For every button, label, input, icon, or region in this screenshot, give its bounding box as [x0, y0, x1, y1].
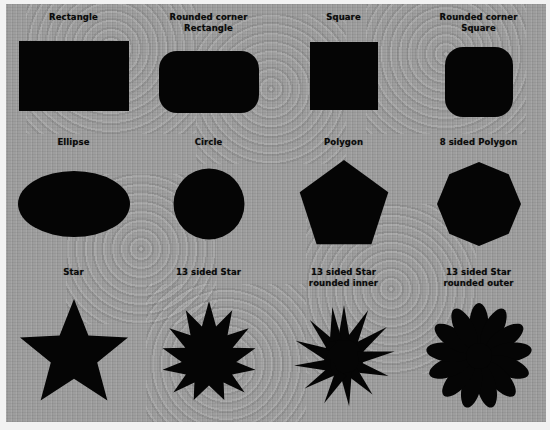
shape-label-13-sided-star-rounded-inner: 13 sided Star rounded inner — [309, 267, 378, 289]
shape-grid: Rectangle Rounded corner Rectangle Squar… — [6, 4, 546, 422]
shape-cell-star: Star — [6, 259, 141, 422]
ellipse-shape — [18, 171, 130, 237]
shape-figure-star-13 — [141, 278, 276, 422]
shape-label-ellipse: Ellipse — [57, 137, 89, 148]
shape-figure-star-13-rounded-outer — [411, 289, 546, 422]
rect-shape — [19, 41, 129, 111]
shape-cell-8-sided-polygon: 8 sided Polygon — [411, 129, 546, 259]
pentagon-shape — [299, 160, 388, 244]
star-13-shape — [162, 301, 255, 400]
figure-panel: Rectangle Rounded corner Rectangle Squar… — [6, 4, 546, 422]
shape-cell-13-sided-star-rounded-outer: 13 sided Star rounded outer — [411, 259, 546, 422]
shape-label-rectangle: Rectangle — [49, 12, 98, 23]
shape-cell-rounded-corner-rectangle: Rounded corner Rectangle — [141, 4, 276, 129]
shape-figure-circle — [141, 148, 276, 259]
shape-label-rounded-corner-square: Rounded corner Square — [440, 12, 518, 34]
shape-figure-star-13-rounded-inner — [276, 289, 411, 422]
figure-canvas: Rectangle Rounded corner Rectangle Squar… — [0, 0, 550, 430]
shape-figure-rounded-square — [411, 34, 546, 129]
shape-figure-octagon — [411, 148, 546, 259]
shape-label-star: Star — [63, 267, 84, 278]
shape-label-13-sided-star-rounded-outer: 13 sided Star rounded outer — [443, 267, 513, 289]
shape-label-rounded-corner-rectangle: Rounded corner Rectangle — [170, 12, 248, 34]
shape-label-square: Square — [326, 12, 361, 23]
shape-cell-ellipse: Ellipse — [6, 129, 141, 259]
star-5-shape — [20, 299, 128, 401]
octagon-shape — [437, 162, 521, 246]
shape-figure-ellipse — [6, 148, 141, 259]
shape-cell-13-sided-star-rounded-inner: 13 sided Star rounded inner — [276, 259, 411, 422]
shape-cell-rectangle: Rectangle — [6, 4, 141, 129]
shape-figure-square — [276, 23, 411, 129]
shape-figure-rounded-rectangle — [141, 34, 276, 129]
shape-cell-circle: Circle — [141, 129, 276, 259]
shape-label-8-sided-polygon: 8 sided Polygon — [440, 137, 518, 148]
shape-cell-13-sided-star: 13 sided Star — [141, 259, 276, 422]
shape-figure-rectangle — [6, 23, 141, 129]
shape-figure-star-5 — [6, 278, 141, 422]
star-13-rounded-inner-shape — [294, 305, 395, 406]
shape-cell-square: Square — [276, 4, 411, 129]
shape-cell-polygon: Polygon — [276, 129, 411, 259]
star-13-rounded-outer-shape — [425, 303, 533, 410]
shape-label-circle: Circle — [195, 137, 223, 148]
circle-shape — [173, 168, 244, 239]
rounded-rect-shape — [159, 51, 259, 113]
rounded-square-shape — [445, 47, 513, 117]
shape-label-polygon: Polygon — [324, 137, 363, 148]
shape-label-13-sided-star: 13 sided Star — [176, 267, 241, 278]
shape-figure-pentagon — [276, 148, 411, 259]
shape-cell-rounded-corner-square: Rounded corner Square — [411, 4, 546, 129]
square-shape — [310, 42, 378, 110]
